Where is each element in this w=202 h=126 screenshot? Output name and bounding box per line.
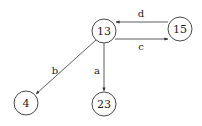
node-label-15: 15 bbox=[173, 23, 187, 36]
edge-label-a: a bbox=[94, 65, 100, 76]
node-4: 4 bbox=[14, 91, 38, 115]
edge-b: b bbox=[36, 40, 96, 94]
edge-d: d bbox=[116, 8, 168, 23]
edge-c: c bbox=[115, 39, 168, 52]
edge-label-b: b bbox=[52, 65, 58, 76]
edge-a: a bbox=[94, 43, 104, 91]
edge-label-c: c bbox=[138, 41, 144, 52]
edge-label-d: d bbox=[138, 8, 145, 19]
node-label-4: 4 bbox=[23, 97, 30, 110]
node-label-23: 23 bbox=[97, 98, 111, 111]
node-15: 15 bbox=[168, 17, 192, 41]
node-13: 13 bbox=[92, 19, 116, 43]
node-label-13: 13 bbox=[97, 25, 111, 38]
graph-canvas: d c b a 13 15 4 23 bbox=[0, 0, 202, 126]
node-23: 23 bbox=[92, 92, 116, 116]
